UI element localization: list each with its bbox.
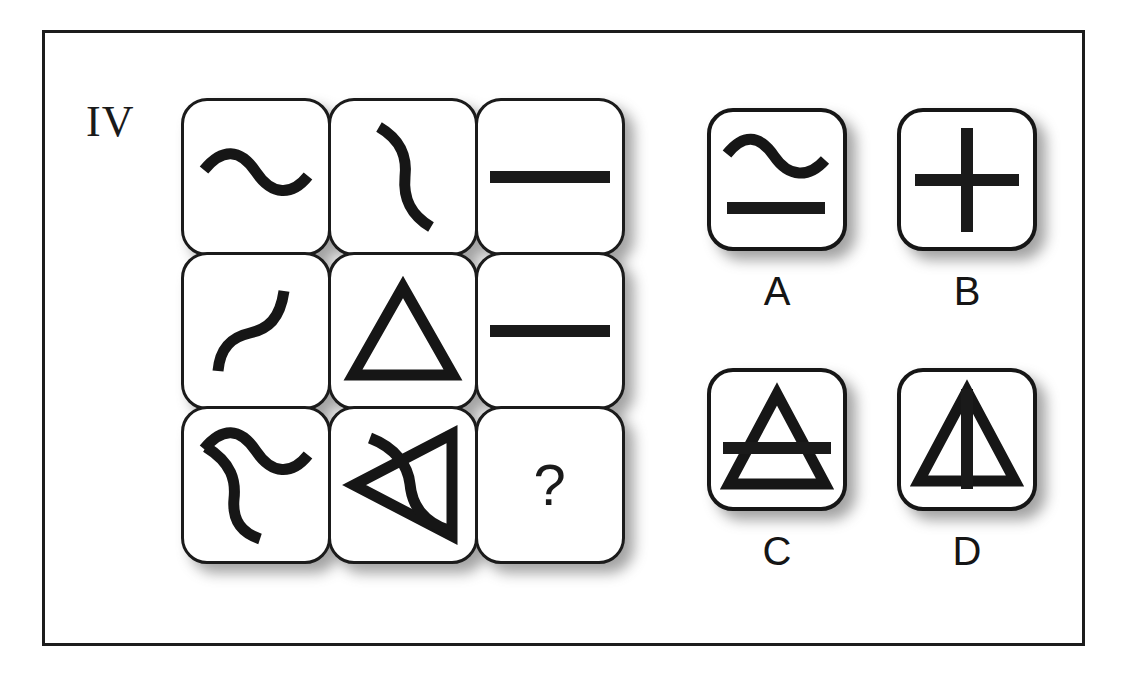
horizontal-tilde-wave-icon	[196, 142, 316, 212]
tilde-over-bar-icon	[721, 132, 833, 228]
matrix-cell-r1c2[interactable]	[328, 98, 478, 256]
matrix-grid: ?	[183, 100, 623, 562]
question-mark-placeholder: ?	[534, 456, 566, 514]
puzzle-page: IV	[0, 0, 1137, 674]
matrix-cell-r3c1[interactable]	[181, 406, 331, 564]
matrix-cell-r3c3[interactable]: ?	[475, 406, 625, 564]
matrix-cell-r3c2[interactable]	[328, 406, 478, 564]
answer-option-d-tile[interactable]	[897, 368, 1037, 511]
plus-cross-icon	[915, 128, 1019, 232]
tilde-plus-vertical-s-curve-icon	[196, 425, 316, 545]
answer-option-c-tile[interactable]	[707, 368, 847, 511]
matrix-cell-r1c1[interactable]	[181, 98, 331, 256]
triangle-left-with-curve-icon	[344, 426, 462, 544]
vertical-s-curve-icon	[363, 119, 443, 235]
answer-option-a[interactable]: A	[707, 108, 847, 311]
matrix-cell-r2c1[interactable]	[181, 252, 331, 410]
answer-option-c-label: C	[707, 531, 847, 571]
item-number-label: IV	[86, 100, 134, 144]
matrix-cell-r1c3[interactable]	[475, 98, 625, 256]
answer-option-d[interactable]: D	[897, 368, 1037, 571]
horizontal-bar-icon	[490, 321, 610, 341]
horizontal-bar-icon	[490, 167, 610, 187]
answer-option-b[interactable]: B	[897, 108, 1037, 311]
diagonal-s-curve-icon	[206, 281, 306, 381]
answer-option-d-label: D	[897, 531, 1037, 571]
triangle-up-with-vertical-bar-icon	[911, 385, 1023, 495]
matrix-cell-r2c2[interactable]	[328, 252, 478, 410]
answer-option-a-tile[interactable]	[707, 108, 847, 251]
answer-option-b-tile[interactable]	[897, 108, 1037, 251]
answer-option-c[interactable]: C	[707, 368, 847, 571]
matrix-cell-r2c3[interactable]	[475, 252, 625, 410]
triangle-up-with-horizontal-bar-icon	[721, 388, 833, 492]
answer-option-a-label: A	[707, 271, 847, 311]
answer-option-b-label: B	[897, 271, 1037, 311]
triangle-up-icon	[345, 279, 461, 383]
